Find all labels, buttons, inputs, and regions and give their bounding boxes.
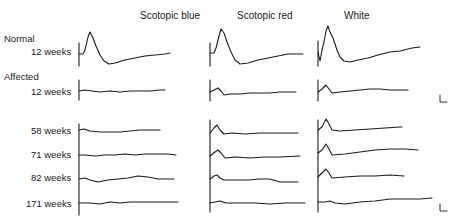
scotopic-red-traces: [210, 29, 305, 212]
scale-bar-icon: [440, 95, 447, 211]
white-traces: [318, 26, 432, 212]
scotopic-blue-traces: [79, 32, 178, 215]
erg-traces: [0, 0, 457, 224]
